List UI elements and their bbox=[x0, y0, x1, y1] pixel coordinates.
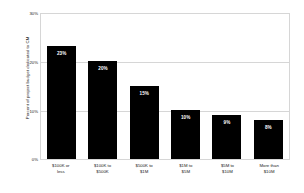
y-tick-label-30: 30% bbox=[22, 11, 38, 16]
bar-value-label: 9% bbox=[224, 120, 231, 126]
bar-slot: 20% bbox=[82, 14, 123, 159]
x-label-2: $500K to $1M bbox=[123, 163, 165, 189]
bar-value-label: 10% bbox=[181, 115, 191, 121]
bar-chart: Percent of project budget dedicated to C… bbox=[0, 0, 304, 193]
x-label-4: $5M to $10M bbox=[207, 163, 249, 189]
bar[interactable]: 23% bbox=[47, 46, 76, 159]
bar-value-label: 23% bbox=[57, 51, 67, 57]
y-tick-label-20: 20% bbox=[22, 60, 38, 65]
bar-slot: 8% bbox=[248, 14, 289, 159]
bar[interactable]: 15% bbox=[130, 86, 159, 160]
bar-value-label: 8% bbox=[265, 125, 272, 131]
bars-layer: 23% 20% 15% 10% 9% bbox=[41, 14, 289, 159]
x-label-5: More than $10M bbox=[248, 163, 290, 189]
bar[interactable]: 20% bbox=[88, 61, 117, 159]
y-tick-label-0: 0% bbox=[22, 157, 38, 162]
x-label-1: $100K to $500K bbox=[82, 163, 124, 189]
x-label-0: $100K or less bbox=[40, 163, 82, 189]
x-label-3: $1M to $5M bbox=[165, 163, 207, 189]
bar-slot: 10% bbox=[165, 14, 206, 159]
bar[interactable]: 9% bbox=[212, 115, 241, 159]
bar-slot: 15% bbox=[124, 14, 165, 159]
y-tick-label-10: 10% bbox=[22, 109, 38, 114]
bar[interactable]: 8% bbox=[254, 120, 283, 159]
x-axis-category-labels: $100K or less $100K to $500K $500K to $1… bbox=[40, 163, 290, 189]
bar[interactable]: 10% bbox=[171, 110, 200, 159]
bar-value-label: 15% bbox=[140, 91, 150, 97]
bar-value-label: 20% bbox=[98, 66, 108, 72]
bar-slot: 9% bbox=[206, 14, 247, 159]
bar-slot: 23% bbox=[41, 14, 82, 159]
plot-area: 23% 20% 15% 10% 9% bbox=[40, 13, 290, 160]
y-axis-tick-labels: 30% 20% 10% 0% bbox=[22, 0, 38, 193]
